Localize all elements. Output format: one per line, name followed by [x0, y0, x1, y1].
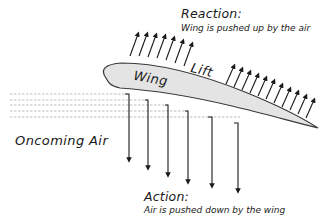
lift-diagram: Reaction: Wing is pushed up by the air L…: [0, 0, 334, 222]
action-description: Air is pushed down by the wing: [144, 205, 285, 215]
reaction-title: Reaction:: [181, 6, 242, 21]
oncoming-air-label: Oncoming Air: [15, 133, 108, 148]
reaction-description: Wing is pushed up by the air: [181, 23, 310, 33]
action-title: Action:: [144, 189, 189, 204]
downwash-arrows: [125, 94, 238, 191]
